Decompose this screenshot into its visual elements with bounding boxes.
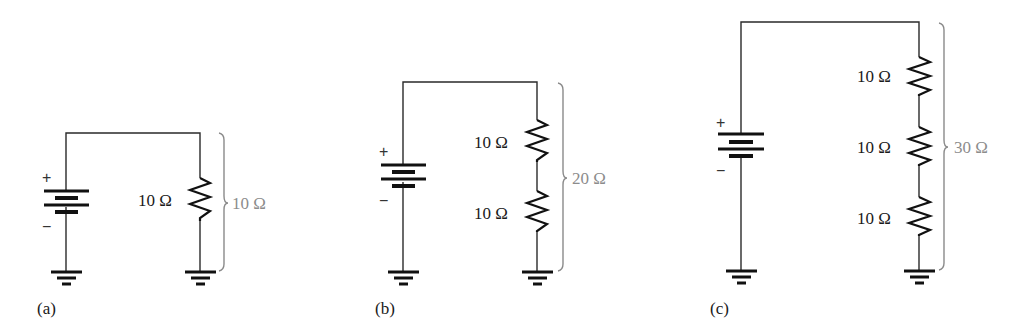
ground-icon xyxy=(522,272,553,284)
resistor-icon xyxy=(527,191,547,232)
brace-icon xyxy=(558,83,567,271)
figure-caption: (c) xyxy=(710,299,729,318)
figure-caption: (b) xyxy=(375,299,395,318)
ground-icon xyxy=(388,272,419,284)
circuit-a: + − 10 Ω 10 Ω (a) xyxy=(37,133,266,318)
total-resistance-label: 20 Ω xyxy=(572,169,606,188)
resistor-icon xyxy=(527,120,547,162)
wire-loop xyxy=(403,82,537,165)
resistor-label: 10 Ω xyxy=(138,191,172,210)
brace-icon xyxy=(219,133,228,271)
resistor-label: 10 Ω xyxy=(857,138,891,157)
wire-loop xyxy=(741,22,919,134)
ground-icon xyxy=(51,272,82,284)
battery-plus-label: + xyxy=(716,114,725,131)
resistor-label: 10 Ω xyxy=(474,133,508,152)
resistor-label: 10 Ω xyxy=(857,209,891,228)
wire-loop xyxy=(66,133,200,191)
ground-icon xyxy=(904,271,935,283)
ground-icon xyxy=(726,271,757,283)
total-resistance-label: 30 Ω xyxy=(954,138,988,157)
battery-plus-label: + xyxy=(42,169,51,186)
battery-minus-label: − xyxy=(42,218,51,235)
series-resistor-figure: + − 10 Ω 10 Ω (a) + − xyxy=(0,0,1029,335)
battery-minus-label: − xyxy=(379,192,388,209)
figure-caption: (a) xyxy=(37,299,56,318)
battery-minus-label: − xyxy=(716,162,725,179)
resistor-label: 10 Ω xyxy=(857,67,891,86)
resistor-icon xyxy=(190,178,210,221)
brace-icon xyxy=(939,23,948,270)
battery-icon xyxy=(718,134,764,156)
circuit-b: + − 10 Ω 10 Ω 20 Ω (b) xyxy=(375,82,606,318)
total-resistance-label: 10 Ω xyxy=(232,194,266,213)
circuit-c: + − 10 Ω 10 Ω 10 Ω 30 Ω (c) xyxy=(710,22,988,318)
resistor-icon xyxy=(909,127,930,166)
battery-plus-label: + xyxy=(379,143,388,160)
resistor-label: 10 Ω xyxy=(474,204,508,223)
resistor-icon xyxy=(909,57,930,96)
ground-icon xyxy=(185,272,216,284)
resistor-icon xyxy=(909,197,930,236)
